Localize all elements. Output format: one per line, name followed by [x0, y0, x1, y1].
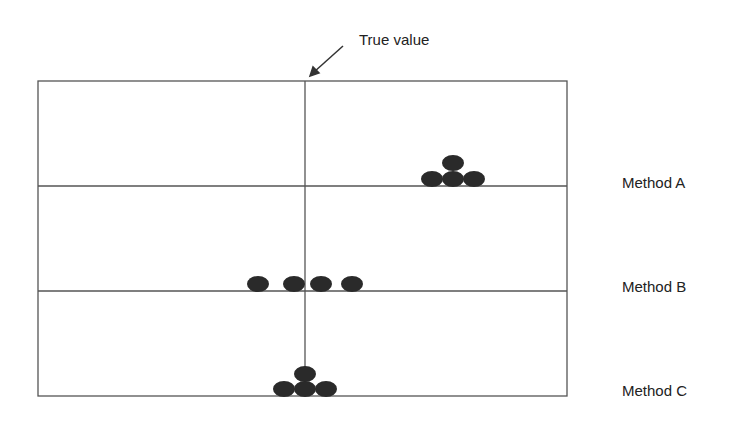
diagram-canvas — [0, 0, 736, 425]
data-point — [442, 155, 464, 171]
data-point — [463, 171, 485, 187]
data-point — [421, 171, 443, 187]
frame — [38, 81, 567, 396]
data-point — [310, 276, 332, 292]
data-point — [294, 366, 316, 382]
data-point — [442, 171, 464, 187]
data-point — [315, 381, 337, 397]
method-a-label: Method A — [622, 174, 685, 191]
method-b-label: Method B — [622, 278, 686, 295]
method-c-label: Method C — [622, 382, 687, 399]
data-point — [273, 381, 295, 397]
arrow-icon — [310, 46, 343, 76]
true-value-label: True value — [359, 31, 429, 48]
data-point — [341, 276, 363, 292]
data-point — [283, 276, 305, 292]
data-dots — [247, 155, 485, 397]
data-point — [247, 276, 269, 292]
data-point — [294, 381, 316, 397]
